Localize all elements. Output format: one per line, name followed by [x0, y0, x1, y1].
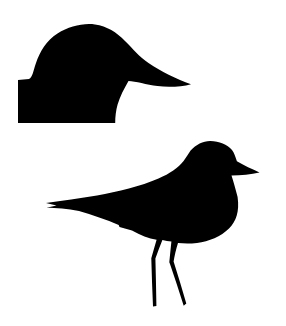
bird-silhouettes-canvas [0, 0, 286, 326]
silhouette-image [0, 0, 286, 326]
standing-shorebird-silhouette [46, 141, 260, 307]
duck-head-silhouette [18, 24, 191, 123]
